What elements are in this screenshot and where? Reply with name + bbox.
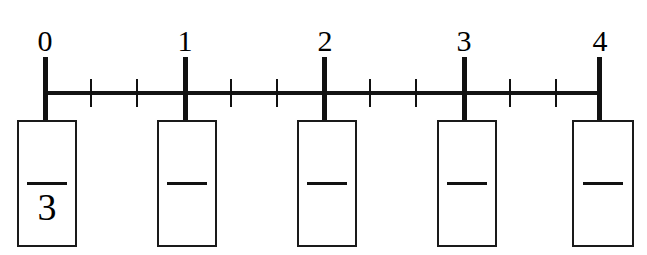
- minor-tick-2-3-a: [369, 79, 371, 107]
- major-tick-2: [322, 57, 327, 128]
- minor-tick-3-4-a: [509, 79, 511, 107]
- minor-tick-1-2-a: [230, 79, 232, 107]
- number-line: 0 1 2 3 4: [0, 0, 647, 140]
- fraction-numerator-3[interactable]: [439, 138, 495, 182]
- tick-label-4: 4: [580, 26, 620, 56]
- tick-label-1: 1: [165, 26, 205, 56]
- major-tick-0: [43, 57, 48, 128]
- minor-tick-0-1-a: [90, 79, 92, 107]
- fraction-numerator-1[interactable]: [159, 138, 215, 182]
- fraction-2: [299, 122, 355, 245]
- fraction-denominator-3[interactable]: [439, 185, 495, 229]
- answer-box-1[interactable]: [157, 120, 217, 247]
- major-tick-4: [597, 57, 602, 128]
- fraction-number-line-worksheet: 0 1 2 3 4 3: [0, 0, 647, 255]
- fraction-3: [439, 122, 495, 245]
- fraction-0: 3: [19, 122, 75, 245]
- minor-tick-1-2-b: [276, 79, 278, 107]
- fraction-1: [159, 122, 215, 245]
- minor-tick-0-1-b: [136, 79, 138, 107]
- major-tick-1: [183, 57, 188, 128]
- major-tick-3: [462, 57, 467, 128]
- answer-box-4[interactable]: [572, 120, 634, 247]
- fraction-denominator-2[interactable]: [299, 185, 355, 229]
- fraction-denominator-4[interactable]: [574, 185, 632, 229]
- minor-tick-3-4-b: [555, 79, 557, 107]
- answer-box-0[interactable]: 3: [17, 120, 77, 247]
- tick-label-3: 3: [444, 26, 484, 56]
- fraction-numerator-2[interactable]: [299, 138, 355, 182]
- fraction-denominator-1[interactable]: [159, 185, 215, 229]
- tick-label-0: 0: [25, 26, 65, 56]
- answer-box-2[interactable]: [297, 120, 357, 247]
- fraction-numerator-4[interactable]: [574, 138, 632, 182]
- minor-tick-2-3-b: [415, 79, 417, 107]
- fraction-4: [574, 122, 632, 245]
- answer-box-3[interactable]: [437, 120, 497, 247]
- fraction-numerator-0[interactable]: [19, 138, 75, 182]
- fraction-denominator-0[interactable]: 3: [19, 185, 75, 229]
- tick-label-2: 2: [305, 26, 345, 56]
